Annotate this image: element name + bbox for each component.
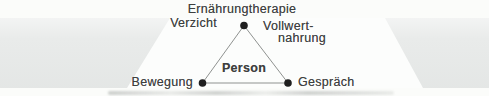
label-bewegung: Bewegung xyxy=(132,76,193,89)
label-gespraech: Gespräch xyxy=(298,76,355,89)
label-vollwert-line2: nahrung xyxy=(278,32,326,45)
label-ernaehrungtherapie: Ernährungtherapie xyxy=(188,3,297,16)
node-dot-bottom-right xyxy=(284,79,292,87)
label-verzicht: Verzicht xyxy=(170,17,217,30)
scanned-diagram-page: Ernährungtherapie Verzicht Vollwert- nah… xyxy=(0,0,489,96)
node-dot-bottom-left xyxy=(199,79,207,87)
node-dot-top xyxy=(240,22,248,30)
label-person-center: Person xyxy=(222,62,266,75)
